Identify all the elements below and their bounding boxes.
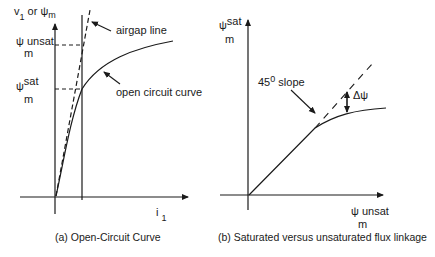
- slope-number: 45: [258, 76, 270, 88]
- superscript: sat: [227, 15, 242, 27]
- slope-arrow: [291, 90, 315, 113]
- panel-a-y-axis-label: v1 or ψm: [14, 6, 56, 17]
- v-subscript: 1: [20, 12, 25, 22]
- tick-psi-sat-subscript: m: [24, 94, 33, 105]
- superscript: unsat: [27, 35, 54, 47]
- x-axis-label-i1: i1: [156, 207, 163, 218]
- psi-symbol: ψ: [351, 205, 359, 217]
- or-text: or: [28, 5, 38, 17]
- slope-45-label: 450 slope: [258, 77, 305, 88]
- panel-b-x-axis-label: ψ unsat: [351, 206, 389, 217]
- tick-psi-sat: ψsat: [16, 81, 39, 92]
- airgap-line: [56, 10, 90, 196]
- panel-b-y-axis-subscript: m: [225, 34, 234, 45]
- tick-psi-unsat: ψ unsat: [16, 36, 54, 47]
- delta-psi-label: Δψ: [353, 90, 368, 101]
- open-circuit-curve-label: open circuit curve: [116, 87, 202, 98]
- panel-b-y-axis-label: ψsat: [219, 20, 242, 31]
- superscript: unsat: [362, 205, 389, 217]
- i-subscript: 1: [161, 213, 166, 223]
- diagram-canvas: [0, 0, 435, 257]
- superscript: sat: [24, 75, 39, 87]
- panel-b-graph: [220, 20, 386, 210]
- saturation-curve: [249, 108, 386, 195]
- psi-subscript: m: [48, 10, 56, 20]
- panel-b-x-axis-subscript: m: [358, 219, 367, 230]
- occ-arrow: [104, 72, 120, 84]
- i-symbol: i: [156, 206, 158, 218]
- airgap-arrow: [92, 22, 111, 31]
- open-circuit-curve: [56, 41, 173, 196]
- slope-text: slope: [278, 76, 304, 88]
- psi-symbol: ψ: [16, 80, 24, 92]
- v-symbol: v: [14, 5, 20, 17]
- panel-a-caption: (a) Open-Circuit Curve: [55, 231, 161, 243]
- degree-superscript: 0: [270, 74, 275, 84]
- panel-b-caption: (b) Saturated versus unsaturated flux li…: [218, 231, 427, 243]
- tick-psi-unsat-subscript: m: [24, 48, 33, 59]
- airgap-line-label: airgap line: [116, 25, 167, 36]
- psi-symbol: ψ: [219, 19, 227, 31]
- psi-symbol: ψ: [16, 35, 24, 47]
